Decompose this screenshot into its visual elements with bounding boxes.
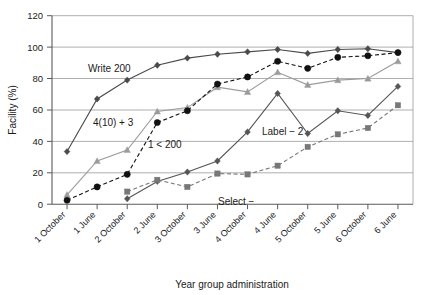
y-tick-label: 120 — [27, 10, 43, 21]
data-point-circle — [154, 119, 160, 125]
x-tick-label: 6 October — [333, 210, 368, 245]
x-tick-label: 5 June — [312, 210, 338, 236]
grid-group — [52, 16, 413, 173]
data-point-square — [125, 189, 130, 194]
series-annotation: Select − — [218, 196, 255, 207]
data-point-diamond — [215, 51, 221, 57]
data-point-diamond — [124, 77, 130, 83]
data-point-circle — [365, 53, 371, 59]
x-tick-label: 5 October — [273, 210, 308, 245]
data-point-diamond — [335, 108, 341, 114]
data-point-circle — [214, 81, 220, 87]
y-tick-label: 0 — [38, 199, 43, 210]
data-point-diamond — [64, 148, 70, 154]
data-point-square — [185, 184, 190, 189]
data-point-diamond — [365, 45, 371, 51]
y-ticks-group — [47, 16, 52, 205]
data-point-circle — [94, 184, 100, 190]
data-point-circle — [275, 58, 281, 64]
data-point-diamond — [184, 169, 190, 175]
data-point-diamond — [245, 49, 251, 55]
x-tick-label: 2 October — [93, 210, 128, 245]
data-point-circle — [335, 54, 341, 60]
chart-container: 020406080100120 1 October1 June2 October… — [0, 0, 424, 295]
series-annotation: 1 < 200 — [148, 139, 182, 150]
x-tick-label: 2 June — [132, 210, 158, 236]
data-point-circle — [395, 50, 401, 56]
x-tick-labels-group: 1 October1 June2 October2 June3 October3… — [32, 210, 398, 245]
x-tick-label: 3 October — [153, 210, 188, 245]
data-point-triangle — [395, 58, 401, 64]
data-point-circle — [184, 108, 190, 114]
y-tick-labels-group: 020406080100120 — [27, 10, 43, 210]
series-annotation: Label − 2 — [262, 126, 304, 137]
data-point-square — [275, 163, 280, 168]
data-point-circle — [124, 171, 130, 177]
data-point-diamond — [124, 196, 130, 202]
data-point-square — [365, 125, 370, 130]
y-tick-label: 60 — [32, 104, 43, 115]
series-write-200 — [64, 45, 401, 154]
data-point-diamond — [184, 55, 190, 61]
data-point-square — [215, 171, 220, 176]
data-point-square — [335, 132, 340, 137]
x-tick-label: 4 June — [252, 210, 278, 236]
y-tick-label: 100 — [27, 42, 43, 53]
data-point-square — [395, 103, 400, 108]
series-line — [67, 61, 398, 195]
data-point-triangle — [274, 69, 280, 75]
x-tick-label: 3 June — [192, 210, 218, 236]
series-annotation: 4(10) + 3 — [93, 117, 134, 128]
data-point-circle — [64, 197, 70, 203]
data-point-circle — [305, 65, 311, 71]
y-tick-label: 20 — [32, 167, 43, 178]
facility-line-chart: 020406080100120 1 October1 June2 October… — [0, 0, 424, 295]
y-tick-label: 80 — [32, 73, 43, 84]
y-tick-label: 40 — [32, 136, 43, 147]
y-axis-title: Facility (%) — [7, 85, 18, 134]
data-point-diamond — [154, 62, 160, 68]
data-point-circle — [244, 74, 250, 80]
data-point-square — [245, 172, 250, 177]
x-tick-label: 6 June — [372, 210, 398, 236]
x-tick-label: 4 October — [213, 210, 248, 245]
data-point-square — [305, 144, 310, 149]
x-tick-label: 1 October — [32, 210, 67, 245]
data-point-diamond — [94, 96, 100, 102]
data-point-square — [155, 177, 160, 182]
series-annotation: Write 200 — [88, 63, 131, 74]
data-point-diamond — [305, 50, 311, 56]
x-tick-label: 1 June — [71, 210, 97, 236]
x-axis-title: Year group administration — [175, 279, 289, 290]
